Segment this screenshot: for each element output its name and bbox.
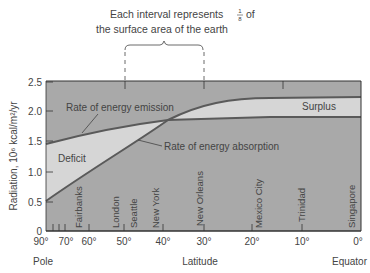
annotation-line1: Each interval represents (110, 8, 223, 20)
city-new-orleans: New Orleans (194, 171, 205, 226)
chart: Each interval represents 1 8 of the surf… (0, 0, 370, 273)
svg-text:1.0: 1.0 (28, 167, 42, 178)
city-seattle: Seattle (128, 198, 139, 228)
svg-text:2.5: 2.5 (28, 77, 42, 88)
svg-text:30°: 30° (196, 236, 211, 247)
svg-text:40°: 40° (155, 236, 170, 247)
svg-text:0°: 0° (353, 236, 363, 247)
svg-text:50°: 50° (116, 236, 131, 247)
x-tick-labels: 90° 70° 60° 50° 40° 30° 20° 10° 0° (33, 236, 362, 247)
emission-label: Rate of energy emission (66, 102, 174, 113)
city-london: London (110, 196, 121, 228)
svg-text:10°: 10° (294, 236, 309, 247)
pole-label: Pole (33, 256, 53, 267)
svg-text:0.5: 0.5 (28, 197, 42, 208)
city-singapore: Singapore (346, 185, 357, 228)
svg-text:20°: 20° (244, 236, 259, 247)
svg-text:60°: 60° (81, 236, 96, 247)
annotation-line2: the surface area of the earth (96, 23, 228, 35)
fraction-numerator: 1 (238, 8, 242, 14)
x-axis-label: Latitude (182, 256, 218, 267)
city-fairbanks: Fairbanks (73, 186, 84, 228)
equator-label: Equator (332, 256, 368, 267)
fraction-denominator: 8 (238, 16, 242, 22)
city-new-york: New York (150, 188, 161, 228)
svg-text:2.0: 2.0 (28, 106, 42, 117)
y-axis-label: Radiation, 10⁶ kcal/m²/yr (8, 101, 19, 211)
deficit-label: Deficit (58, 153, 86, 164)
interval-brace (125, 41, 203, 50)
svg-text:90°: 90° (33, 236, 48, 247)
svg-text:1.5: 1.5 (28, 136, 42, 147)
y-tick-labels: 2.5 2.0 1.5 1.0 0.5 0 (28, 77, 42, 237)
city-mexico-city: Mexico City (253, 179, 264, 228)
absorption-label: Rate of energy absorption (164, 141, 279, 152)
surplus-label: Surplus (302, 101, 336, 112)
svg-text:70°: 70° (58, 236, 73, 247)
city-trinidad: Trinidad (296, 188, 307, 222)
annotation-of: of (246, 8, 255, 20)
